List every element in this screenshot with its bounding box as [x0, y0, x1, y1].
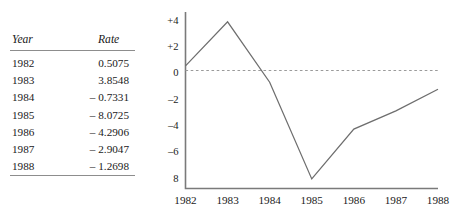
y-tick-label: 0: [173, 67, 178, 78]
rate-line-chart: +4+20–2–4–68 198219831984198519861987198…: [150, 6, 455, 218]
y-tick-label: –2: [167, 94, 179, 105]
cell-year: 1983: [10, 72, 64, 89]
table-head: Year Rate: [10, 33, 135, 51]
table-row: 19820.5075: [10, 51, 135, 72]
chart-svg: +4+20–2–4–68 198219831984198519861987198…: [150, 6, 455, 218]
column-header-year: Year: [10, 33, 64, 51]
y-tick-label: 8: [173, 173, 178, 184]
table-row: 1985– 8.0725: [10, 106, 135, 123]
table-bottom-rule: [10, 175, 135, 176]
cell-rate: – 0.7331: [64, 89, 135, 106]
y-tick-label: +2: [167, 41, 178, 52]
cell-rate: 0.5075: [64, 51, 135, 72]
x-axis-tick-labels: 1982198319841985198619871988: [174, 194, 449, 206]
cell-rate: – 4.2906: [64, 123, 135, 140]
table-row: 1984– 0.7331: [10, 89, 135, 106]
rate-figure: Year Rate 19820.507519833.85481984– 0.73…: [0, 0, 460, 222]
cell-rate: – 2.9047: [64, 140, 135, 157]
x-tick-label: 1987: [385, 194, 408, 206]
cell-year: 1982: [10, 51, 64, 72]
y-axis-tick-labels: +4+20–2–4–68: [167, 15, 179, 184]
y-tick-label: –4: [167, 120, 179, 131]
x-tick-label: 1984: [258, 194, 281, 206]
y-tick-label: –6: [167, 146, 179, 157]
cell-year: 1988: [10, 158, 64, 175]
column-header-rate: Rate: [64, 33, 135, 51]
table-row: 1988– 1.2698: [10, 158, 135, 175]
x-tick-label: 1982: [174, 194, 196, 206]
table-row: 19833.8548: [10, 72, 135, 89]
x-tick-label: 1983: [216, 194, 239, 206]
x-tick-label: 1988: [427, 194, 450, 206]
y-tick-label: +4: [167, 15, 179, 26]
cell-rate: 3.8548: [64, 72, 135, 89]
chart-axes: [186, 12, 439, 189]
cell-year: 1987: [10, 140, 64, 157]
table-row: 1987– 2.9047: [10, 140, 135, 157]
table-body: 19820.507519833.85481984– 0.73311985– 8.…: [10, 51, 135, 175]
table-row: 1986– 4.2906: [10, 123, 135, 140]
table: Year Rate 19820.507519833.85481984– 0.73…: [10, 33, 135, 175]
rate-data-table: Year Rate 19820.507519833.85481984– 0.73…: [10, 33, 135, 175]
x-tick-label: 1986: [343, 194, 366, 206]
cell-year: 1986: [10, 123, 64, 140]
cell-rate: – 1.2698: [64, 158, 135, 175]
cell-year: 1984: [10, 89, 64, 106]
cell-rate: – 8.0725: [64, 106, 135, 123]
cell-year: 1985: [10, 106, 64, 123]
rate-series-line: [186, 22, 439, 179]
x-tick-label: 1985: [301, 194, 324, 206]
table-header-row: Year Rate: [10, 33, 135, 51]
